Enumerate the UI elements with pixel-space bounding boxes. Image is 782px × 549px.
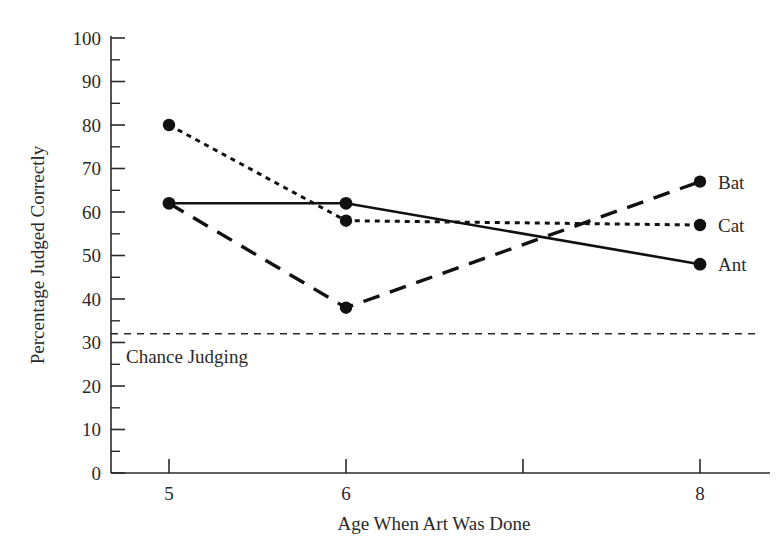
y-tick-label-50: 50: [82, 245, 101, 266]
chance-judging-annotation: Chance Judging: [111, 334, 758, 367]
y-axis: 0 10 20 30 40 50 60 70 80 90 100 Percent…: [27, 28, 125, 484]
series-ant-point-5[interactable]: [163, 197, 176, 210]
series-ant-point-8[interactable]: [694, 258, 707, 271]
series-ant[interactable]: Ant: [163, 197, 748, 275]
series-ant-point-6[interactable]: [340, 197, 353, 210]
x-axis: 5 6 8 Age When Art Was Done: [111, 459, 770, 534]
chance-judging-label: Chance Judging: [126, 346, 248, 367]
series-cat-point-8[interactable]: [694, 219, 706, 231]
y-tick-label-40: 40: [82, 289, 101, 310]
series-ant-line[interactable]: [169, 203, 700, 264]
line-chart-plot: 0 10 20 30 40 50 60 70 80 90 100 Percent…: [0, 0, 782, 549]
series-label-cat: Cat: [718, 215, 745, 236]
y-tick-label-70: 70: [82, 158, 101, 179]
y-tick-label-90: 90: [82, 71, 101, 92]
y-tick-label-30: 30: [82, 332, 101, 353]
y-tick-label-100: 100: [73, 28, 102, 49]
series-cat-point-6[interactable]: [340, 215, 352, 227]
y-tick-label-80: 80: [82, 115, 101, 136]
x-tick-label-8: 8: [695, 483, 705, 504]
series-cat-point-5[interactable]: [163, 119, 175, 131]
series-cat[interactable]: Cat: [163, 119, 745, 236]
series-label-ant: Ant: [718, 254, 747, 275]
series-label-bat: Bat: [718, 172, 745, 193]
series-cat-line[interactable]: [169, 125, 700, 225]
series-bat-point-8[interactable]: [694, 175, 706, 187]
series-bat[interactable]: Bat: [169, 172, 745, 314]
chart-figure: Figure: Percentage of Artwork Judged Cor…: [0, 0, 782, 549]
y-tick-label-10: 10: [82, 419, 101, 440]
x-tick-label-5: 5: [164, 483, 174, 504]
x-tick-label-6: 6: [341, 483, 351, 504]
y-tick-label-20: 20: [82, 376, 101, 397]
series-bat-line[interactable]: [169, 182, 700, 308]
y-axis-title: Percentage Judged Correctly: [27, 145, 48, 364]
y-tick-label-60: 60: [82, 202, 101, 223]
x-axis-title: Age When Art Was Done: [337, 513, 530, 534]
y-tick-label-0: 0: [92, 463, 102, 484]
series-bat-point-6[interactable]: [340, 302, 352, 314]
